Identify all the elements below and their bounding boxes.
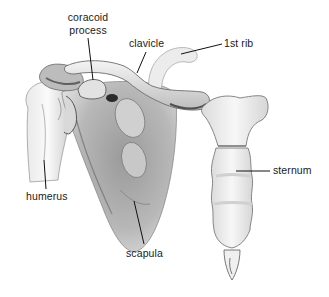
leader-coracoid (88, 38, 93, 80)
label-humerus: humerus (26, 190, 68, 203)
scapula-bone (62, 81, 177, 252)
label-coracoid-line1: coracoid (62, 11, 114, 24)
label-first-rib: 1st rib (224, 37, 253, 50)
shoulder-girdle-diagram: coracoid process clavicle 1st rib humeru… (0, 0, 329, 297)
label-scapula: scapula (126, 247, 163, 260)
leader-clavicle (137, 52, 146, 73)
label-clavicle: clavicle (129, 37, 164, 50)
bone-illustration (0, 0, 329, 297)
label-coracoid-line2: process (62, 24, 114, 37)
label-coracoid-process: coracoid process (62, 11, 114, 37)
sternum-bone (202, 96, 269, 280)
label-sternum: sternum (273, 164, 312, 177)
